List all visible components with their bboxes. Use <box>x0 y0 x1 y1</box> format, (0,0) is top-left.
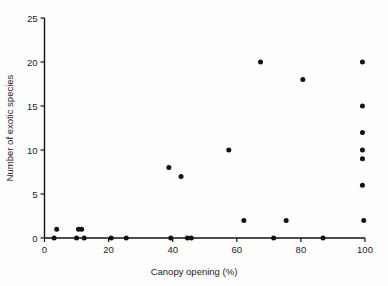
data-point <box>360 130 365 135</box>
data-point <box>74 236 79 241</box>
data-point <box>284 218 289 223</box>
data-point <box>258 60 263 65</box>
chart-canvas: 0510152025 020406080100 Canopy opening (… <box>0 0 388 286</box>
data-point <box>109 236 114 241</box>
data-point <box>179 174 184 179</box>
scatter-plot-figure: 0510152025 020406080100 Canopy opening (… <box>0 0 388 286</box>
data-point <box>241 218 246 223</box>
y-axis: 0510152025 <box>27 13 45 244</box>
x-tick-label: 100 <box>357 244 373 255</box>
data-point <box>321 236 326 241</box>
y-tick-label: 20 <box>27 57 38 68</box>
y-tick-label: 5 <box>32 189 37 200</box>
y-tick-label: 10 <box>27 145 38 156</box>
data-point <box>168 236 173 241</box>
data-point <box>79 227 84 232</box>
data-point <box>271 236 276 241</box>
data-point <box>360 183 365 188</box>
y-tick-label: 25 <box>27 13 38 24</box>
data-point <box>360 148 365 153</box>
x-tick-label: 80 <box>296 244 307 255</box>
data-point <box>360 156 365 161</box>
data-point <box>52 236 57 241</box>
data-point <box>54 227 59 232</box>
data-point <box>226 148 231 153</box>
data-point <box>82 236 87 241</box>
y-tick-label: 15 <box>27 101 38 112</box>
data-point <box>360 104 365 109</box>
x-axis: 020406080100 <box>42 238 373 255</box>
data-points <box>52 60 367 241</box>
plot-area: 0510152025 020406080100 Canopy opening (… <box>0 0 388 286</box>
data-point <box>124 236 129 241</box>
x-axis-title: Canopy opening (%) <box>151 266 238 277</box>
data-point <box>360 60 365 65</box>
x-tick-label: 60 <box>232 244 243 255</box>
data-point <box>166 165 171 170</box>
x-tick-label: 20 <box>103 244 114 255</box>
x-tick-label: 40 <box>167 244 178 255</box>
y-tick-label: 0 <box>32 233 37 244</box>
data-point <box>300 77 305 82</box>
y-axis-title: Number of exotic species <box>4 74 15 181</box>
data-point <box>189 236 194 241</box>
x-tick-label: 0 <box>42 244 47 255</box>
data-point <box>361 218 366 223</box>
